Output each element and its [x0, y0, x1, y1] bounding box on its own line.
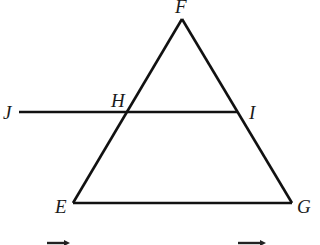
label-i: I: [248, 102, 257, 123]
overline-arrow-right: [238, 240, 266, 245]
overline-arrow-left: [47, 240, 70, 245]
label-f: F: [174, 0, 187, 17]
label-j: J: [3, 102, 13, 123]
label-h: H: [110, 90, 126, 111]
label-g: G: [297, 196, 311, 217]
label-e: E: [54, 196, 67, 217]
geometry-diagram: F H I J E G: [0, 0, 320, 245]
